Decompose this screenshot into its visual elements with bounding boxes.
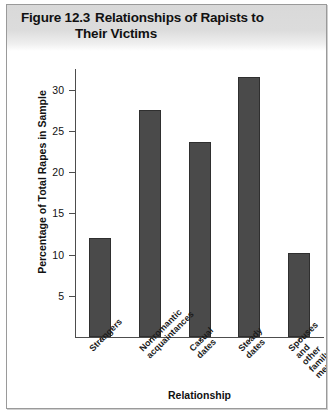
figure-title-line-1: Figure 12.3Relationships of Rapists to bbox=[21, 10, 318, 26]
bar bbox=[238, 77, 260, 337]
bar bbox=[139, 110, 161, 337]
y-axis-tick-label: 10 bbox=[34, 250, 64, 260]
figure-title-line-2: Their Victims bbox=[21, 26, 318, 42]
bar bbox=[89, 238, 111, 337]
chart-plot-area: Percentage of Total Rapes in Sample 5101… bbox=[7, 51, 327, 409]
y-axis-tick bbox=[69, 90, 76, 91]
y-axis-tick bbox=[69, 255, 76, 256]
y-axis-tick bbox=[69, 213, 76, 214]
x-axis-title: Relationship bbox=[75, 389, 324, 401]
bar bbox=[189, 142, 211, 337]
y-axis-tick-label: 15 bbox=[34, 208, 64, 218]
y-axis-tick-label: 25 bbox=[34, 126, 64, 136]
figure-frame: Figure 12.3Relationships of Rapists to T… bbox=[6, 4, 327, 409]
y-axis-tick-label: 20 bbox=[34, 167, 64, 177]
figure-number: Figure 12.3 bbox=[21, 10, 90, 25]
y-axis-tick bbox=[69, 131, 76, 132]
figure-title-main: Relationships of Rapists to bbox=[95, 10, 264, 25]
y-axis-tick bbox=[69, 296, 76, 297]
figure-title: Figure 12.3Relationships of Rapists to T… bbox=[21, 10, 318, 42]
y-axis-tick-label: 5 bbox=[34, 291, 64, 301]
figure-title-band: Figure 12.3Relationships of Rapists to T… bbox=[7, 5, 326, 51]
y-axis-tick bbox=[69, 172, 76, 173]
y-axis-tick-label: 30 bbox=[34, 85, 64, 95]
y-axis-line bbox=[75, 69, 76, 337]
